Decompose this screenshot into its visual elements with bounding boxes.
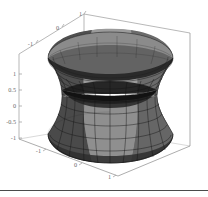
z-axis-ticks — [19, 74, 22, 138]
footer-horizontal-rule — [0, 190, 208, 191]
z-tick-label-1: 1 — [13, 70, 16, 77]
x-tick-label-1: 1 — [108, 173, 111, 180]
x-tick-label-0: 0 — [74, 161, 77, 168]
z-tick-label-neg0.5: -0.5 — [6, 118, 16, 125]
hyperboloid-3d-plot: 1 0.5 0 -0.5 -1 -1 0 1 — [0, 0, 208, 197]
x-tick-label-neg1: -1 — [36, 147, 41, 154]
y-tick-label-1: 1 — [79, 10, 82, 17]
surface-upper-lobe — [48, 29, 173, 96]
plot-figure: 1 0.5 0 -0.5 -1 -1 0 1 — [0, 0, 208, 197]
z-tick-label-0.5: 0.5 — [8, 86, 16, 93]
y-tick-label-neg1: -1 — [28, 40, 33, 47]
y-tick-label-0: 0 — [56, 24, 59, 31]
z-axis: 1 0.5 0 -0.5 -1 — [6, 54, 22, 141]
hyperboloid-surface — [48, 29, 173, 163]
z-tick-label-neg1: -1 — [11, 134, 16, 141]
z-tick-label-0: 0 — [13, 102, 16, 109]
